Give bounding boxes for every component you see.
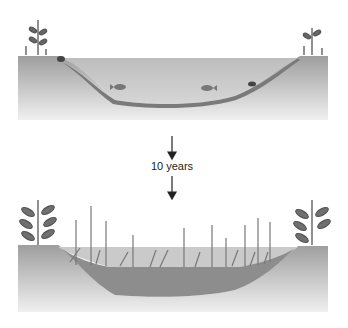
turtle-icon [57,56,65,62]
marsh-stage [18,200,332,312]
shore-plant-right [303,28,322,55]
tree-right [292,200,331,245]
shore-plant-left [26,20,47,55]
snail-icon [248,82,256,87]
tree-left [18,200,57,245]
pond-stage [18,20,328,120]
time-label: 10 years [151,160,194,172]
pond-succession-diagram: 10 years [0,0,348,328]
